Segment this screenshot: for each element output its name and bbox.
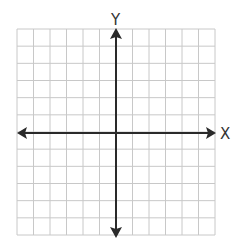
x-axis-label: X [220, 125, 230, 143]
y-axis-label: Y [110, 11, 121, 29]
coordinate-plane: Y X [0, 0, 237, 246]
